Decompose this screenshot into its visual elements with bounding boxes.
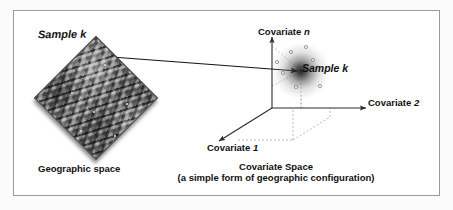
covariate-scatter-point xyxy=(275,60,279,64)
covariate-scatter-point xyxy=(294,85,298,89)
covariate-space-caption-line1: Covariate Space xyxy=(178,161,375,172)
covariate-2-prefix: Covariate xyxy=(368,97,414,108)
covariate-1-prefix: Covariate xyxy=(207,142,253,153)
geographic-sample-k-label: Sample k xyxy=(38,28,86,41)
covariate-n-prefix: Covariate xyxy=(258,26,304,37)
geographic-space-terrain xyxy=(34,38,156,156)
figure-canvas: Sample k Geographic space Sample k Covar… xyxy=(0,0,453,210)
covariate-1-symbol: 1 xyxy=(253,142,258,153)
covariate-n-axis-label: Covariate n xyxy=(258,26,310,37)
covariate-sample-k-label: Sample k xyxy=(302,62,348,74)
covariate-2-symbol: 2 xyxy=(414,97,419,108)
covariate-space-caption-line2: (a simple form of geographic configurati… xyxy=(178,172,375,183)
dem-surface xyxy=(34,36,158,160)
covariate-scatter-point xyxy=(304,45,308,49)
covariate-1-axis-label: Covariate 1 xyxy=(207,142,258,153)
geographic-space-caption: Geographic space xyxy=(38,163,120,174)
covariate-scatter-point xyxy=(281,71,285,75)
covariate-scatter-point xyxy=(289,50,293,54)
covariate-2-axis-label: Covariate 2 xyxy=(368,97,419,108)
covariate-space-caption: Covariate Space (a simple form of geogra… xyxy=(178,161,375,183)
covariate-scatter-point xyxy=(318,84,322,88)
covariate-n-symbol: n xyxy=(304,26,310,37)
